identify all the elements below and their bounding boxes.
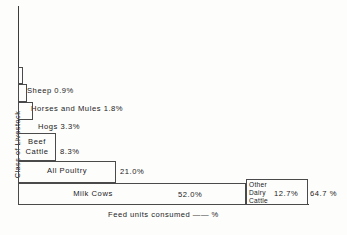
bar-label-other-dairy-cattle-line1: Other [249, 181, 267, 189]
bar-total-value-dairy: 64.7 % [310, 189, 337, 198]
bar-value-beef-cattle: 8.3% [60, 147, 80, 156]
bar-label-all-poultry: All Poultry [18, 167, 116, 176]
bar-label-horses-and-mules: Horses and Mules 1.8% [31, 105, 123, 114]
bar-value-milk-cows: 52.0% [178, 190, 202, 199]
x-axis-label: Feed units consumed —— % [18, 210, 309, 219]
bar-value-other-dairy-cattle: 12.7% [274, 189, 298, 198]
bar-label-other-dairy-cattle-line3: Cattle [249, 197, 268, 205]
bar-value-all-poultry: 21.0% [120, 167, 144, 176]
bar-label-hogs: Hogs 3.3% [38, 123, 80, 132]
bar-label-sheep: Sheep 0.9% [27, 87, 74, 96]
bar-sheep [18, 67, 23, 84]
bar-horses-and-mules [18, 84, 27, 102]
bar-label-other-dairy-cattle-line2: Dairy [249, 189, 266, 197]
bar-label-milk-cows: Milk Cows [18, 190, 168, 199]
bar-label-beef-cattle-line1: Beef [18, 138, 56, 147]
bar-hogs [18, 102, 33, 120]
bar-label-beef-cattle-line2: Cattle [18, 148, 56, 157]
livestock-feed-bar-chart: Class of Livestock Feed units consumed —… [0, 0, 347, 235]
